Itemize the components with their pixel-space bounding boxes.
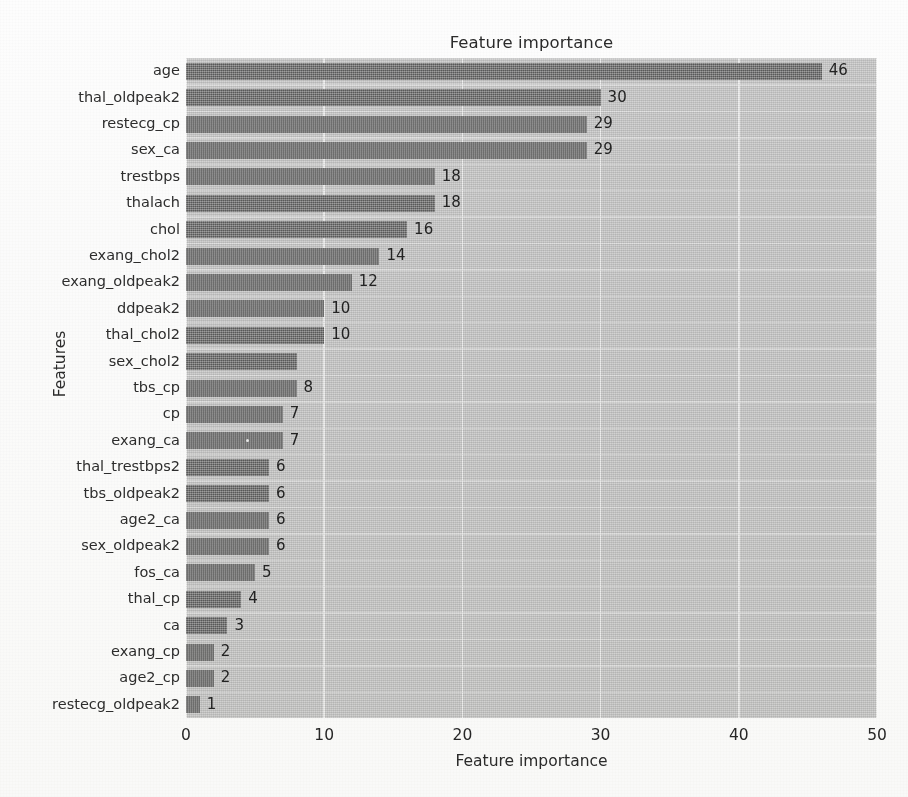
horizontal-gridline (186, 137, 877, 138)
y-axis-tick-label: age (2, 62, 180, 79)
horizontal-gridline (186, 348, 877, 349)
bar-value-label: 6 (276, 511, 286, 528)
bar-value-label: 4 (248, 590, 258, 607)
horizontal-gridline (186, 454, 877, 455)
y-axis-tick-label: thal_chol2 (2, 326, 180, 343)
vertical-gridline (876, 58, 877, 718)
x-axis-tick-label: 30 (591, 726, 611, 744)
x-axis-title: Feature importance (186, 752, 877, 770)
horizontal-gridline (186, 375, 877, 376)
x-axis-tick-label: 50 (867, 726, 887, 744)
y-axis-tick-label: sex_chol2 (2, 353, 180, 370)
bar (186, 168, 435, 185)
y-axis-tick-label: thal_trestbps2 (2, 458, 180, 475)
y-axis-tick-label: tbs_oldpeak2 (2, 485, 180, 502)
bar (186, 63, 822, 80)
x-axis-tick-label: 20 (453, 726, 473, 744)
y-axis-tick-label: exang_cp (2, 643, 180, 660)
bar-value-label: 7 (290, 405, 300, 422)
horizontal-gridline (186, 507, 877, 508)
y-axis-tick-label: restecg_oldpeak2 (2, 696, 180, 713)
bar (186, 670, 214, 687)
horizontal-gridline (186, 665, 877, 666)
horizontal-gridline (186, 428, 877, 429)
bar (186, 564, 255, 581)
bar (186, 459, 269, 476)
bar-value-label: 12 (359, 273, 378, 290)
bar (186, 644, 214, 661)
x-axis-tick-label: 10 (314, 726, 334, 744)
bar-value-label: 6 (276, 485, 286, 502)
bar (186, 512, 269, 529)
y-axis-tick-label: cp (2, 405, 180, 422)
y-axis-tick-label: ca (2, 617, 180, 634)
y-axis-tick-label: sex_oldpeak2 (2, 537, 180, 554)
horizontal-gridline (186, 164, 877, 165)
bar-value-label: 29 (594, 141, 613, 158)
y-axis-tick-label: thalach (2, 194, 180, 211)
bar-value-label: 10 (331, 326, 350, 343)
y-axis-tick-label: exang_oldpeak2 (2, 273, 180, 290)
bar-value-label: 7 (290, 432, 300, 449)
y-axis-tick-label: chol (2, 221, 180, 238)
horizontal-gridline (186, 533, 877, 534)
bar-value-label: 18 (442, 168, 461, 185)
bar (186, 353, 297, 370)
horizontal-gridline (186, 480, 877, 481)
bar-value-label: 18 (442, 194, 461, 211)
bar (186, 538, 269, 555)
bar-value-label: 6 (276, 537, 286, 554)
horizontal-gridline (186, 216, 877, 217)
bar-value-label: 5 (262, 564, 272, 581)
bar-value-label: 1 (207, 696, 217, 713)
horizontal-gridline (186, 560, 877, 561)
bar (186, 248, 379, 265)
horizontal-gridline (186, 243, 877, 244)
y-axis-tick-label: exang_ca (2, 432, 180, 449)
y-axis-tick-label: restecg_cp (2, 115, 180, 132)
bar (186, 591, 241, 608)
horizontal-gridline (186, 639, 877, 640)
bar (186, 116, 587, 133)
bar-value-label: 29 (594, 115, 613, 132)
bar-value-label: 2 (221, 669, 231, 686)
horizontal-gridline (186, 401, 877, 402)
vertical-gridline (738, 58, 740, 718)
horizontal-gridline (186, 612, 877, 613)
y-axis-tick-label: age2_cp (2, 669, 180, 686)
bar-value-label: 6 (276, 458, 286, 475)
horizontal-gridline (186, 296, 877, 297)
bar-value-label: 16 (414, 221, 433, 238)
horizontal-gridline (186, 692, 877, 693)
bar (186, 617, 227, 634)
y-axis-tick-label: tbs_cp (2, 379, 180, 396)
bar (186, 327, 324, 344)
y-axis-tick-label: trestbps (2, 168, 180, 185)
horizontal-gridline (186, 586, 877, 587)
y-axis-tick-label: ddpeak2 (2, 300, 180, 317)
bar-value-label: 46 (829, 62, 848, 79)
y-axis-tick-label: thal_cp (2, 590, 180, 607)
x-axis-tick-label: 40 (729, 726, 749, 744)
chart-title: Feature importance (186, 33, 877, 52)
horizontal-gridline (186, 111, 877, 112)
horizontal-gridline (186, 58, 877, 59)
bar (186, 142, 587, 159)
horizontal-gridline (186, 190, 877, 191)
bar (186, 221, 407, 238)
horizontal-gridline (186, 269, 877, 270)
plot-area (186, 58, 877, 718)
bar (186, 300, 324, 317)
y-axis-tick-label: thal_oldpeak2 (2, 89, 180, 106)
bar (186, 432, 283, 449)
bar (186, 696, 200, 713)
bar-value-label: 3 (234, 617, 244, 634)
bar (186, 485, 269, 502)
bar (186, 274, 352, 291)
feature-importance-chart-figure: Feature importance agethal_oldpeak2reste… (0, 0, 908, 797)
y-axis-tick-label: age2_ca (2, 511, 180, 528)
bar-value-label: 2 (221, 643, 231, 660)
x-axis-tick-label: 0 (181, 726, 191, 744)
bar (186, 380, 297, 397)
bar-value-label: 8 (304, 379, 314, 396)
